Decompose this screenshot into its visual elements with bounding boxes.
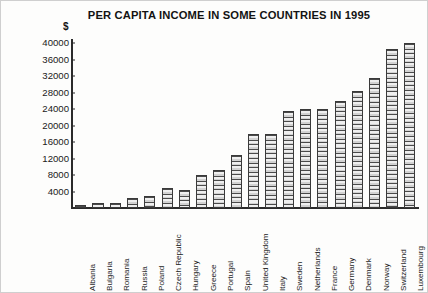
bar [92,203,103,208]
bar-slot [211,39,228,208]
y-tick-label: 4000 [1,187,75,197]
x-tick-label: Switzerland [397,211,410,291]
y-tick-mark [71,125,75,126]
x-tick-label: Sweden [293,211,306,291]
y-tick-mark [71,158,75,159]
bar-slot [384,39,401,208]
bar [248,134,259,208]
y-tick-label: 40000 [1,38,75,48]
bar-slot [350,39,367,208]
x-tick-label: Italy [276,211,289,291]
bar-series [73,39,419,208]
y-tick-mark [71,191,75,192]
x-tick-label: Portugal [224,211,237,291]
x-tick-label: Bulgaria [103,211,116,291]
x-tick-label: Greece [207,211,220,291]
x-tick-label: Norway [380,211,393,291]
bar [127,198,138,208]
y-tick-label: 12000 [1,154,75,164]
x-tick-label: Luxembourg [414,211,427,291]
bar-slot [281,39,298,208]
bar-slot [108,39,125,208]
bar [162,188,173,208]
bar [179,190,190,208]
bar-slot [402,39,419,208]
x-tick-label: France [328,211,341,291]
bar [144,196,155,208]
bar [110,203,121,208]
y-tick-label: 28000 [1,88,75,98]
bar [352,91,363,208]
bar [404,43,415,208]
bar [335,101,346,208]
bar [75,205,86,208]
bar-slot [90,39,107,208]
y-tick-label: 24000 [1,104,75,114]
y-tick-label: 32000 [1,71,75,81]
bar [265,134,276,208]
y-tick-label: 36000 [1,55,75,65]
x-tick-label: Netherlands [311,211,324,291]
x-tick-label: Hungary [189,211,202,291]
x-tick-label: Russia [138,211,151,291]
x-tick-label: Spain [241,211,254,291]
bar-slot [367,39,384,208]
x-tick-label: Romania [120,211,133,291]
bar [369,78,380,208]
bar-slot [298,39,315,208]
bar-slot [177,39,194,208]
y-tick-label: 8000 [1,170,75,180]
x-tick-label: United Kingdom [259,211,272,291]
bar-slot [73,39,90,208]
y-tick-label: 16000 [1,137,75,147]
y-tick-mark [71,92,75,93]
y-tick-mark [71,142,75,143]
bar-slot [229,39,246,208]
chart-title: PER CAPITA INCOME IN SOME COUNTRIES IN 1… [1,9,428,21]
x-tick-label: Albania [86,211,99,291]
bar-slot [315,39,332,208]
bar [196,175,207,208]
y-tick-mark [71,175,75,176]
y-tick-mark [71,59,75,60]
bar-slot [160,39,177,208]
bar-slot [142,39,159,208]
x-tick-label: Germany [345,211,358,291]
bar [300,109,311,208]
bar [317,109,328,208]
y-tick-mark [71,76,75,77]
bar-slot [194,39,211,208]
bar [213,170,224,208]
x-tick-label: Denmark [362,211,375,291]
x-tick-label: Czech Republic [172,211,185,291]
chart-figure: PER CAPITA INCOME IN SOME COUNTRIES IN 1… [0,0,428,293]
bar-slot [263,39,280,208]
y-tick-mark [71,109,75,110]
y-axis-unit-label: $ [63,21,69,32]
y-tick-label: 20000 [1,121,75,131]
bar [386,49,397,208]
bar-slot [333,39,350,208]
y-tick-mark [71,43,75,44]
bar [283,111,294,208]
x-tick-label: Poland [155,211,168,291]
x-axis-labels: AlbaniaBulgariaRomaniaRussiaPolandCzech … [73,211,419,293]
bar-slot [125,39,142,208]
bar [231,155,242,208]
bar-slot [246,39,263,208]
